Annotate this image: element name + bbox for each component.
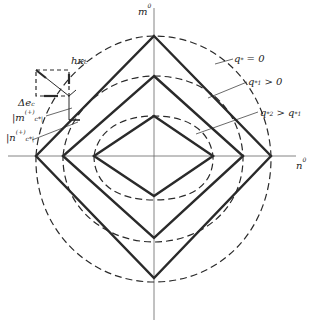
h-kappa-symbol: hκ (71, 55, 84, 66)
delta-e-label: Δec (18, 98, 35, 108)
q2-rest: > q (273, 107, 294, 118)
dashed-curve-outer (36, 36, 271, 282)
h-kappa-label: hκc (71, 56, 87, 66)
q1-rest: > 0 (261, 76, 282, 87)
m-plus-label: |m(+)c*| (12, 112, 43, 123)
curve-label-q2: q*2 > q*1 (260, 108, 301, 118)
m-sup: (+) (25, 108, 35, 115)
n-symbol: |n (6, 132, 16, 143)
dashed-curve-inner (94, 116, 213, 200)
vertical-axis-sup: 0 (147, 2, 151, 9)
curve-label-q1: q*1 > 0 (248, 77, 282, 87)
n-sub: c*| (26, 135, 34, 142)
n-sup: (+) (16, 128, 26, 135)
horizontal-axis-sup: 0 (302, 156, 306, 163)
inset-arrow-diag (36, 70, 46, 78)
h-kappa-sub: c (84, 58, 87, 65)
yield-surface-diagram: m0 n0 q* = 0 q*1 > 0 q*2 > q*1 hκc Δec |… (0, 0, 314, 326)
delta-e-symbol: Δe (18, 97, 31, 108)
m-sub: c*| (35, 115, 43, 122)
q0-rest: = 0 (243, 53, 264, 64)
diamond-outer (36, 36, 271, 278)
vertical-axis-label: m0 (138, 6, 151, 17)
curve-label-q0: q* = 0 (234, 54, 265, 64)
inset-leader-diag (69, 90, 76, 96)
leader-m (46, 108, 72, 116)
diagram-canvas (0, 0, 314, 326)
delta-e-sub: c (31, 100, 34, 107)
m-symbol: |m (12, 112, 25, 123)
leader-q1 (208, 82, 247, 98)
q2-sub2: *1 (294, 110, 301, 117)
horizontal-axis-label: n0 (296, 160, 306, 171)
n-plus-label: |n(+)c*| (6, 132, 34, 143)
